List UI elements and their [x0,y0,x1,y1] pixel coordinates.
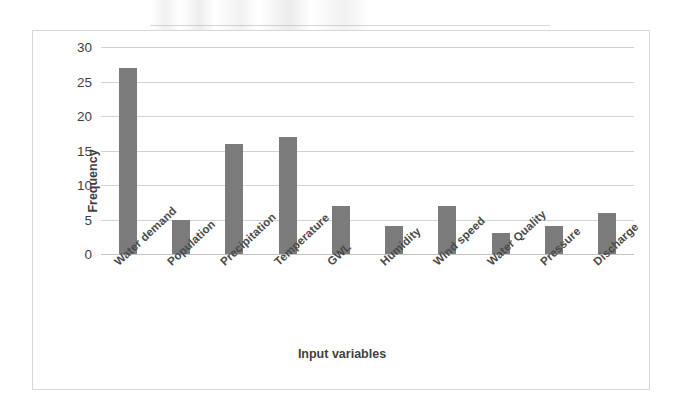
y-axis-tick: 20 [77,109,92,124]
bar-slot [368,47,421,254]
y-axis-tick: 30 [77,40,92,55]
y-axis-title: Frequency [93,181,107,182]
x-axis-title: Input variables [33,347,651,361]
bar-slot [421,47,474,254]
plot-area: 051015202530 Water demandPopulationPreci… [101,47,634,254]
bar [119,68,137,254]
y-axis-tick: 0 [84,247,92,262]
chart-frame: 051015202530 Water demandPopulationPreci… [32,30,650,390]
scan-noise-artifact [0,0,681,30]
bar-series [101,47,634,254]
bar [279,137,297,254]
y-axis-tick: 5 [84,212,92,227]
bar-slot [581,47,634,254]
bar-slot [208,47,261,254]
y-axis-tick: 25 [77,74,92,89]
y-axis-title-text: Frequency [86,149,100,212]
bar-slot [101,47,154,254]
